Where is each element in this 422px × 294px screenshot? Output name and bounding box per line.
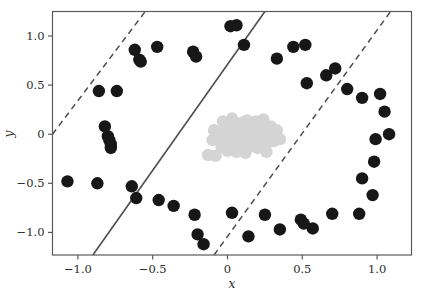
data-point [356, 92, 368, 104]
x-tick-label: 0.5 [293, 262, 311, 276]
data-point [230, 146, 242, 158]
data-point [190, 50, 202, 62]
x-tick-label: 0 [224, 262, 231, 276]
scatter-plot-figure: −1.0−0.500.51.0 −1.0−0.500.51.0 x y [0, 0, 422, 294]
y-tick-label: −1.0 [17, 225, 45, 239]
data-point [299, 39, 311, 51]
data-point [374, 88, 386, 100]
data-point [91, 177, 103, 189]
data-point [130, 192, 142, 204]
x-tick-label: 1.0 [368, 262, 386, 276]
data-point [105, 142, 117, 154]
data-point [368, 156, 380, 168]
data-point [329, 62, 341, 74]
data-point [378, 105, 390, 117]
data-point [209, 150, 221, 162]
data-point [274, 133, 286, 145]
data-point [61, 175, 73, 187]
data-point [260, 146, 272, 158]
data-point [307, 222, 319, 234]
data-point [126, 180, 138, 192]
data-point [383, 128, 395, 140]
data-point [326, 208, 338, 220]
y-tick-label: 0.5 [26, 78, 44, 92]
data-point [151, 41, 163, 53]
data-point [111, 85, 123, 97]
figure-background [0, 0, 422, 294]
y-tick-label: 1.0 [26, 29, 44, 43]
data-point [366, 189, 378, 201]
data-point [153, 194, 165, 206]
x-tick-label: −0.5 [139, 262, 167, 276]
data-point [259, 209, 271, 221]
data-point [356, 172, 368, 184]
data-point [135, 55, 147, 67]
data-point [93, 85, 105, 97]
data-point [226, 207, 238, 219]
data-point [188, 209, 200, 221]
y-axis-title: y [2, 131, 16, 138]
data-point [353, 208, 365, 220]
data-point [197, 238, 209, 250]
data-point [242, 230, 254, 242]
data-point [274, 223, 286, 235]
x-tick-label: −1.0 [64, 262, 92, 276]
data-point [230, 19, 242, 31]
plot-canvas [0, 0, 422, 294]
data-point [238, 39, 250, 51]
y-tick-label: 0 [37, 127, 44, 141]
data-point [341, 83, 353, 95]
y-tick-label: −0.5 [17, 176, 45, 190]
data-point [167, 200, 179, 212]
data-point [301, 77, 313, 89]
data-point [369, 133, 381, 145]
x-axis-title: x [229, 277, 236, 291]
data-point [271, 52, 283, 64]
data-point [287, 41, 299, 53]
